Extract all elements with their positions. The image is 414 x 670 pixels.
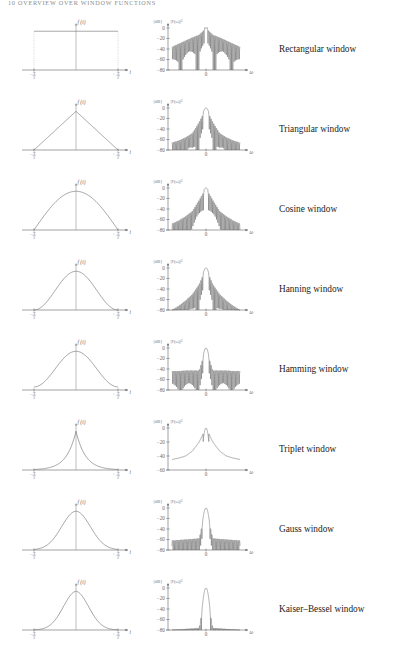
freq-y-tick-label: −40 [157,606,165,612]
time-x-tick-label: −T2 [30,71,36,81]
freq-y-axis-label: |F(ω)|² [171,259,183,264]
freq-y-tick-label: −60 [157,536,165,542]
freq-y-tick-label: −80 [157,147,165,153]
freq-y-tick-label: 0 [162,345,165,351]
frequency-domain-plot: 0−20−40−60−800ω[dB]|F(ω)|² [146,334,256,396]
freq-y-tick-label: −40 [157,46,165,52]
time-x-tick-label: −T2 [30,551,36,561]
time-domain-plot: −T2+T2tf (t) [22,414,130,476]
time-plot-container: −T2+T2tf (t) [22,174,130,236]
svg-text:2: 2 [117,395,119,400]
freq-y-tick-label: 0 [162,425,165,431]
freq-y-tick-label: −60 [157,296,165,302]
window-caption: Hanning window [279,284,414,294]
freq-plot-container: 0−20−40−60−800ω[dB]|F(ω)|² [146,254,256,316]
time-plot-container: −T2+T2tf (t) [22,574,130,636]
time-y-axis-label: f (t) [78,419,86,426]
freq-y-tick-label: −80 [157,627,165,633]
window-caption: Triangular window [279,124,414,134]
time-domain-plot: −T2+T2tf (t) [22,574,130,636]
time-y-axis-label: f (t) [78,499,86,506]
freq-y-tick-label: −40 [157,206,165,212]
time-domain-plot: −T2+T2tf (t) [22,94,130,156]
freq-y-tick-label: 0 [162,585,165,591]
spectrum-curve [172,28,240,70]
svg-text:2: 2 [117,155,119,160]
window-row: −T2+T2tf (t)0−20−40−60−800ω[dB]|F(ω)|²Ga… [0,494,414,574]
time-x-axis-label: t [130,69,132,75]
time-y-axis-label: f (t) [78,99,86,106]
window-row: −T2+T2tf (t)0−20−40−60−800ω[dB]|F(ω)|²Re… [0,14,414,94]
svg-text:2: 2 [117,75,119,80]
spectrum-curve [172,108,240,150]
time-y-axis-label: f (t) [78,339,86,346]
freq-x-tick-label: 0 [205,311,208,317]
freq-y-tick-label: −60 [157,216,165,222]
freq-y-axis-label: |F(ω)|² [171,499,183,504]
time-x-axis-label: t [130,469,132,475]
time-x-axis-label: t [130,229,132,235]
frequency-domain-plot: 0−20−40−60−800ω[dB]|F(ω)|² [146,494,256,556]
freq-y-tick-label: 0 [162,185,165,191]
time-domain-plot: −T2+T2tf (t) [22,14,130,76]
spectrum-curve [172,348,240,390]
freq-y-tick-label: −40 [157,453,165,459]
freq-y-tick-label: −80 [157,547,165,553]
window-caption: Rectangular window [279,44,414,54]
freq-x-axis-label: ω [250,229,254,235]
freq-unit-label: [dB] [154,339,163,344]
time-x-axis-label: t [130,389,132,395]
time-x-tick-label: −T2 [30,151,36,161]
freq-y-tick-label: −60 [157,376,165,382]
time-y-axis-label: f (t) [78,579,86,586]
freq-y-tick-label: −40 [157,366,165,372]
svg-text:2: 2 [33,555,35,560]
freq-unit-label: [dB] [154,419,163,424]
time-domain-plot: −T2+T2tf (t) [22,334,130,396]
window-row: −T2+T2tf (t)0−20−40−60−800ω[dB]|F(ω)|²Ha… [0,334,414,414]
svg-text:+: + [113,152,116,157]
time-x-tick-label: +T2 [113,391,120,401]
time-x-axis-label: t [130,309,132,315]
svg-text:2: 2 [117,315,119,320]
time-x-axis-label: t [130,549,132,555]
time-x-tick-label: +T2 [113,151,120,161]
freq-y-axis-label: |F(ω)|² [171,419,183,424]
time-domain-plot: −T2+T2tf (t) [22,494,130,556]
frequency-domain-plot: 0−20−40−60−800ω[dB]|F(ω)|² [146,94,256,156]
freq-plot-container: 0−20−40−60−800ω[dB]|F(ω)|² [146,494,256,556]
svg-text:2: 2 [33,235,35,240]
time-plot-container: −T2+T2tf (t) [22,14,130,76]
spectrum-curve [172,588,240,630]
freq-x-axis-label: ω [250,149,254,155]
time-plot-container: −T2+T2tf (t) [22,414,130,476]
svg-text:2: 2 [33,395,35,400]
time-x-tick-label: −T2 [30,391,36,401]
frequency-domain-plot: 0−20−40−60−800ω[dB]|F(ω)|² [146,14,256,76]
freq-y-tick-label: −40 [157,286,165,292]
time-x-tick-label: −T2 [30,631,36,641]
time-y-axis-label: f (t) [78,259,86,266]
freq-y-tick-label: −20 [157,35,165,41]
freq-y-axis-label: |F(ω)|² [171,579,183,584]
freq-x-tick-label: 0 [205,551,208,557]
time-plot-container: −T2+T2tf (t) [22,254,130,316]
window-caption: Triplet window [279,444,414,454]
svg-text:2: 2 [33,315,35,320]
window-row: −T2+T2tf (t)0−20−40−600ω[dB]|F(ω)|²Tripl… [0,414,414,494]
freq-y-tick-label: 0 [162,105,165,111]
freq-x-axis-label: ω [250,309,254,315]
time-y-axis-label: f (t) [78,19,86,26]
window-row: −T2+T2tf (t)0−20−40−60−800ω[dB]|F(ω)|²Ka… [0,574,414,654]
freq-x-tick-label: 0 [205,471,208,477]
spectrum-curve [172,508,240,550]
freq-unit-label: [dB] [154,179,163,184]
freq-plot-container: 0−20−40−60−800ω[dB]|F(ω)|² [146,94,256,156]
time-x-tick-label: +T2 [113,631,120,641]
time-x-axis-label: t [130,629,132,635]
freq-y-tick-label: −40 [157,526,165,532]
freq-y-tick-label: 0 [162,505,165,511]
frequency-domain-plot: 0−20−40−60−800ω[dB]|F(ω)|² [146,174,256,236]
time-x-tick-label: −T2 [30,231,36,241]
time-x-tick-label: +T2 [113,71,120,81]
